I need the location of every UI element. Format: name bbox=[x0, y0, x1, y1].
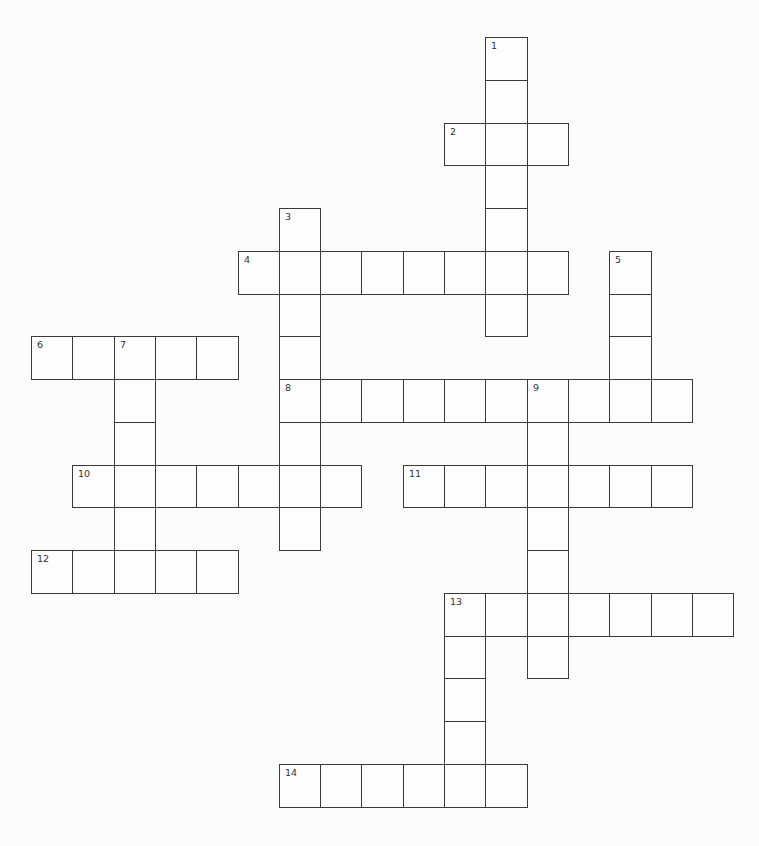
cell-letter-input[interactable] bbox=[362, 380, 403, 422]
crossword-cell[interactable] bbox=[609, 465, 652, 508]
crossword-cell[interactable]: 2 bbox=[444, 123, 486, 166]
cell-letter-input[interactable] bbox=[321, 252, 361, 294]
crossword-cell[interactable] bbox=[320, 251, 362, 295]
cell-letter-input[interactable] bbox=[280, 209, 320, 251]
crossword-cell[interactable] bbox=[279, 251, 321, 295]
crossword-cell[interactable] bbox=[444, 379, 486, 423]
cell-letter-input[interactable] bbox=[280, 423, 320, 465]
cell-letter-input[interactable] bbox=[115, 380, 155, 422]
crossword-cell[interactable] bbox=[444, 636, 486, 679]
crossword-cell[interactable] bbox=[651, 465, 693, 508]
crossword-cell[interactable] bbox=[485, 165, 528, 209]
crossword-cell[interactable] bbox=[444, 764, 486, 808]
cell-letter-input[interactable] bbox=[652, 380, 692, 422]
cell-letter-input[interactable] bbox=[280, 252, 320, 294]
cell-letter-input[interactable] bbox=[486, 209, 527, 251]
crossword-cell[interactable] bbox=[403, 379, 445, 423]
crossword-cell[interactable]: 14 bbox=[279, 764, 321, 808]
crossword-cell[interactable] bbox=[527, 422, 569, 466]
crossword-cell[interactable] bbox=[444, 251, 486, 295]
crossword-cell[interactable] bbox=[279, 422, 321, 466]
cell-letter-input[interactable] bbox=[115, 466, 155, 507]
crossword-cell[interactable]: 6 bbox=[31, 336, 73, 380]
cell-letter-input[interactable] bbox=[115, 337, 155, 379]
cell-letter-input[interactable] bbox=[404, 252, 444, 294]
cell-letter-input[interactable] bbox=[445, 722, 485, 764]
cell-letter-input[interactable] bbox=[528, 466, 568, 507]
crossword-cell[interactable]: 8 bbox=[279, 379, 321, 423]
crossword-cell[interactable] bbox=[114, 550, 156, 594]
crossword-cell[interactable]: 12 bbox=[31, 550, 73, 594]
cell-letter-input[interactable] bbox=[197, 466, 238, 507]
cell-letter-input[interactable] bbox=[115, 508, 155, 550]
cell-letter-input[interactable] bbox=[569, 594, 609, 636]
crossword-cell[interactable] bbox=[361, 251, 404, 295]
crossword-cell[interactable] bbox=[403, 764, 445, 808]
cell-letter-input[interactable] bbox=[73, 466, 114, 507]
crossword-cell[interactable] bbox=[361, 764, 404, 808]
cell-letter-input[interactable] bbox=[239, 252, 279, 294]
crossword-cell[interactable] bbox=[114, 379, 156, 423]
cell-letter-input[interactable] bbox=[280, 508, 320, 550]
cell-letter-input[interactable] bbox=[528, 508, 568, 550]
crossword-cell[interactable] bbox=[320, 465, 362, 508]
cell-letter-input[interactable] bbox=[404, 466, 444, 507]
crossword-cell[interactable] bbox=[609, 336, 652, 380]
crossword-cell[interactable] bbox=[485, 294, 528, 337]
cell-letter-input[interactable] bbox=[486, 124, 527, 165]
crossword-cell[interactable]: 4 bbox=[238, 251, 280, 295]
crossword-cell[interactable]: 1 bbox=[485, 37, 528, 81]
crossword-cell[interactable] bbox=[444, 721, 486, 765]
crossword-cell[interactable] bbox=[527, 550, 569, 594]
crossword-cell[interactable] bbox=[72, 336, 115, 380]
cell-letter-input[interactable] bbox=[445, 124, 485, 165]
crossword-cell[interactable] bbox=[568, 379, 610, 423]
crossword-cell[interactable] bbox=[568, 593, 610, 637]
cell-letter-input[interactable] bbox=[610, 466, 651, 507]
crossword-cell[interactable] bbox=[279, 336, 321, 380]
cell-letter-input[interactable] bbox=[115, 551, 155, 593]
cell-letter-input[interactable] bbox=[486, 594, 527, 636]
cell-letter-input[interactable] bbox=[197, 551, 238, 593]
crossword-cell[interactable] bbox=[196, 465, 239, 508]
cell-letter-input[interactable] bbox=[73, 551, 114, 593]
crossword-cell[interactable] bbox=[444, 465, 486, 508]
cell-letter-input[interactable] bbox=[32, 337, 72, 379]
cell-letter-input[interactable] bbox=[280, 295, 320, 336]
crossword-cell[interactable] bbox=[403, 251, 445, 295]
cell-letter-input[interactable] bbox=[528, 423, 568, 465]
crossword-cell[interactable] bbox=[485, 465, 528, 508]
cell-letter-input[interactable] bbox=[445, 380, 485, 422]
crossword-cell[interactable] bbox=[527, 465, 569, 508]
crossword-cell[interactable] bbox=[651, 379, 693, 423]
cell-letter-input[interactable] bbox=[362, 252, 403, 294]
crossword-cell[interactable] bbox=[155, 336, 197, 380]
cell-letter-input[interactable] bbox=[486, 38, 527, 80]
crossword-cell[interactable] bbox=[651, 593, 693, 637]
cell-letter-input[interactable] bbox=[362, 765, 403, 807]
crossword-cell[interactable] bbox=[485, 251, 528, 295]
cell-letter-input[interactable] bbox=[280, 337, 320, 379]
cell-letter-input[interactable] bbox=[528, 594, 568, 636]
crossword-cell[interactable]: 3 bbox=[279, 208, 321, 252]
crossword-cell[interactable] bbox=[361, 379, 404, 423]
crossword-cell[interactable] bbox=[527, 507, 569, 551]
cell-letter-input[interactable] bbox=[528, 637, 568, 678]
crossword-cell[interactable] bbox=[609, 379, 652, 423]
crossword-cell[interactable] bbox=[72, 550, 115, 594]
cell-letter-input[interactable] bbox=[486, 166, 527, 208]
crossword-cell[interactable] bbox=[485, 593, 528, 637]
crossword-cell[interactable]: 13 bbox=[444, 593, 486, 637]
crossword-cell[interactable] bbox=[527, 636, 569, 679]
cell-letter-input[interactable] bbox=[486, 466, 527, 507]
crossword-cell[interactable] bbox=[609, 593, 652, 637]
cell-letter-input[interactable] bbox=[280, 380, 320, 422]
crossword-cell[interactable] bbox=[527, 123, 569, 166]
crossword-cell[interactable]: 7 bbox=[114, 336, 156, 380]
crossword-cell[interactable] bbox=[485, 764, 528, 808]
cell-letter-input[interactable] bbox=[73, 337, 114, 379]
cell-letter-input[interactable] bbox=[321, 765, 361, 807]
crossword-cell[interactable] bbox=[114, 507, 156, 551]
cell-letter-input[interactable] bbox=[445, 679, 485, 721]
cell-letter-input[interactable] bbox=[115, 423, 155, 465]
